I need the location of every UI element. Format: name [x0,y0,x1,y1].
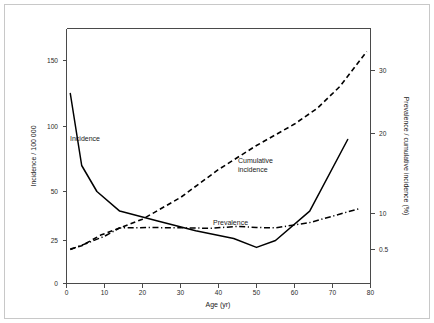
incidence-prevalence-chart: 150 100 50 25 0 30 20 10 0.5 [0,0,434,323]
annotation-prevalence: Prevalence [213,219,248,226]
xtick-label-80: 80 [367,289,375,296]
y2-axis-title: Prevalence / cumulative incidence (%) [402,97,410,216]
xtick-label-40: 40 [215,289,223,296]
ytick-label-25: 25 [51,237,59,244]
annotation-incidence: Incidence [70,135,100,142]
xtick-label-10: 10 [101,289,109,296]
ytick-label-150: 150 [47,57,58,64]
annotation-cumulative: Cumulative [238,157,273,164]
y2tick-label-20: 20 [379,130,387,137]
series-prevalence-line [70,209,359,250]
xtick-label-50: 50 [253,289,261,296]
y2tick-label-10: 10 [379,210,387,217]
y2tick-label-30: 30 [379,67,387,74]
xtick-label-60: 60 [291,289,299,296]
plot-axes [67,29,371,284]
y-axis-title: Incidence / 100 000 [30,125,37,186]
figure-container: 150 100 50 25 0 30 20 10 0.5 [0,0,434,323]
left-axis-ticks: 150 100 50 25 0 [47,57,67,287]
annotation-cumulative-2: incidence [238,166,268,173]
xtick-label-70: 70 [329,289,337,296]
ytick-label-0: 0 [54,280,58,287]
y2tick-label-05: 0.5 [379,246,388,253]
x-axis-ticks: 0 10 20 30 40 50 60 70 80 [65,284,375,297]
xtick-label-0: 0 [65,289,69,296]
xtick-label-30: 30 [177,289,185,296]
x-axis-title: Age (yr) [206,301,231,309]
right-axis-ticks: 30 20 10 0.5 [371,67,389,253]
ytick-label-100: 100 [47,123,58,130]
ytick-label-50: 50 [51,188,59,195]
xtick-label-20: 20 [139,289,147,296]
